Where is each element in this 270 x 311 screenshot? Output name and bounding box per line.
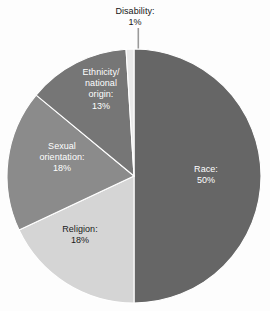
pie-chart-svg	[0, 0, 270, 311]
pie-chart-figure: Disability: 1% Race: 50% Religion: 18% S…	[0, 0, 270, 311]
pie-slices-group	[7, 49, 261, 303]
pie-slice-race	[134, 49, 261, 303]
